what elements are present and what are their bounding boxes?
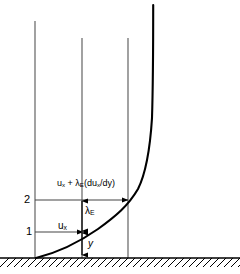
velocity-label-ux: ux xyxy=(58,221,67,232)
station-label-1: 1 xyxy=(26,226,32,237)
expr-part-d: /dy) xyxy=(100,178,115,188)
velocity-profile-figure: 2 1 ux λE y ux + λE(dux/dy) xyxy=(0,0,240,274)
expr-part-c: (du xyxy=(84,178,97,188)
station-label-2: 2 xyxy=(24,194,30,205)
wall-distance-label: y xyxy=(88,239,93,249)
diagram-canvas xyxy=(0,0,240,274)
mixing-length-label: λE xyxy=(85,206,95,217)
velocity-expression-label: ux + λE(dux/dy) xyxy=(57,179,115,188)
velocity-profile-curve xyxy=(36,5,153,258)
wall-hatching xyxy=(0,258,240,267)
lambda-subscript: E xyxy=(90,209,95,216)
velocity-subscript: x xyxy=(64,224,67,231)
expr-part-b: + λ xyxy=(65,178,80,188)
